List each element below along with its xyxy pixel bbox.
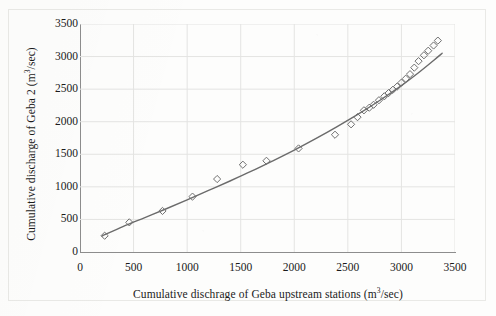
data-point-markers (101, 37, 441, 239)
x-axis-tick-label: 1500 (229, 262, 252, 274)
y-axis-tick-label: 500 (61, 214, 78, 226)
y-axis-tick-label: 1500 (55, 149, 78, 161)
double-mass-curve-chart: 0500100015002000250030003500 05001000150… (0, 0, 496, 316)
y-axis-title: Cumulative discharge of Geba 2 (m3/sec) (25, 15, 37, 273)
data-point-marker (411, 64, 418, 71)
x-axis-tick-label: 2000 (283, 262, 306, 274)
trend-line (102, 53, 442, 236)
data-point-marker (214, 175, 221, 182)
x-axis-title: Cumulative dischrage of Geba upstream st… (80, 288, 456, 300)
y-axis-tick-label: 2000 (55, 116, 78, 128)
y-axis-tick-label: 1000 (55, 181, 78, 193)
y-axis-tick-label: 2500 (55, 83, 78, 95)
y-axis-tick-label: 3500 (55, 18, 78, 30)
y-axis-tick-label: 0 (72, 246, 78, 258)
y-axis-tick-label: 3000 (55, 51, 78, 63)
x-axis-tick-label: 0 (77, 262, 83, 274)
x-axis-tick-label: 2500 (336, 262, 359, 274)
x-axis-tick-label: 3000 (390, 262, 413, 274)
x-axis-tick-label: 3500 (444, 262, 467, 274)
data-point-marker (415, 58, 422, 65)
x-axis-tick-label: 500 (125, 262, 142, 274)
plot-canvas (80, 24, 455, 252)
gridlines (80, 24, 455, 252)
x-axis-tick-label: 1000 (176, 262, 199, 274)
data-point-marker (331, 131, 338, 138)
